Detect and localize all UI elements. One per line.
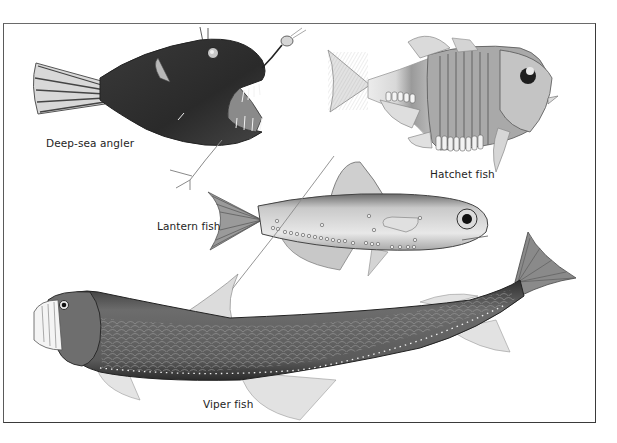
hatchet-fish-figure [328,36,558,172]
label-hatchet-fish: Hatchet fish [430,168,495,180]
label-deep-sea-angler: Deep-sea angler [46,137,134,149]
viper-fish-figure [34,232,576,420]
deep-sea-angler-figure [33,27,306,190]
label-lantern-fish: Lantern fish [157,220,221,232]
label-viper-fish: Viper fish [203,398,253,410]
fish-illustration [0,0,617,443]
